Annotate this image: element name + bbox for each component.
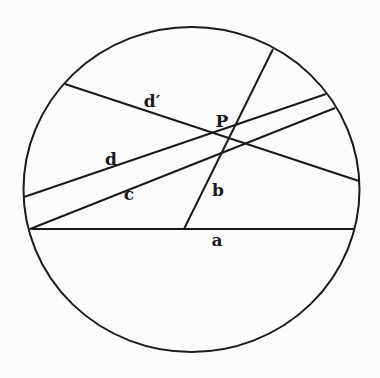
chord-b [184, 49, 273, 229]
label-d-prime: d′ [144, 91, 161, 111]
label-b: b [212, 180, 224, 200]
label-d: d [105, 149, 117, 169]
chord-d [24, 94, 326, 197]
chord-diagram: a b c d d′ P [0, 0, 380, 378]
chord-c [30, 108, 335, 229]
circle [24, 27, 360, 352]
label-point-p: P [216, 111, 229, 131]
label-c: c [124, 184, 134, 204]
label-a: a [211, 230, 222, 250]
